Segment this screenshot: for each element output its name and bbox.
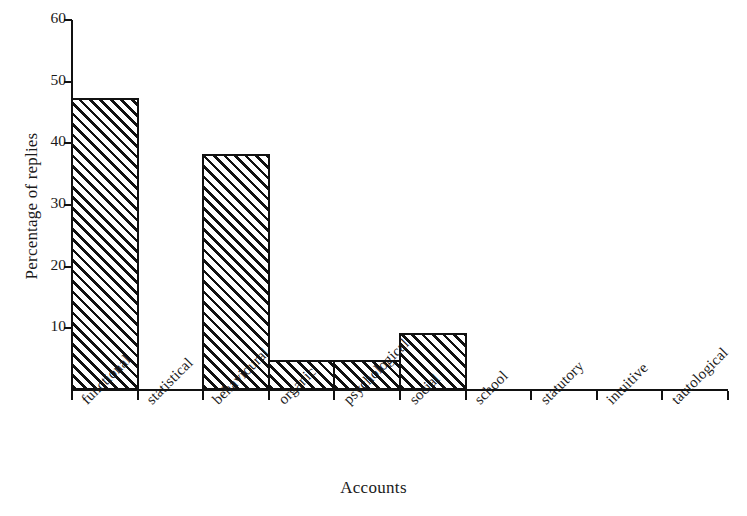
y-axis-tick-label: 40 [22, 132, 66, 150]
x-tick-label-tautological: tautological [668, 344, 732, 408]
y-axis-tick-label: 30 [22, 194, 66, 212]
y-axis-tick-label: 50 [22, 71, 66, 89]
x-axis-tick-mark [399, 391, 401, 400]
x-axis-title: Accounts [0, 478, 747, 498]
y-axis-tick-label: 60 [22, 9, 66, 27]
y-axis-tick-mark [64, 19, 72, 21]
x-axis-tick-mark [530, 391, 532, 400]
y-axis-tick-mark [64, 81, 72, 83]
x-axis-tick-mark [661, 391, 663, 400]
x-axis-tick-mark [727, 391, 729, 400]
x-tick-label-school: school [471, 367, 512, 408]
x-tick-label-intuitive: intuitive [603, 359, 652, 408]
x-axis-tick-mark [596, 391, 598, 400]
y-axis-tick-label: 20 [22, 256, 66, 274]
bar-chart: Percentage of replies 102030405060 funct… [0, 0, 747, 516]
x-axis-tick-mark [465, 391, 467, 400]
x-axis-tick-mark [137, 391, 139, 400]
x-tick-label-statutory: statutory [537, 358, 587, 408]
x-axis-tick-mark [333, 391, 335, 400]
x-axis-tick-mark [202, 391, 204, 400]
x-axis-tick-mark [268, 391, 270, 400]
x-tick-label-statistical: statistical [143, 354, 197, 408]
y-axis-tick-label: 10 [22, 317, 66, 335]
bar-functional [71, 98, 139, 390]
x-axis-tick-mark [71, 391, 73, 400]
